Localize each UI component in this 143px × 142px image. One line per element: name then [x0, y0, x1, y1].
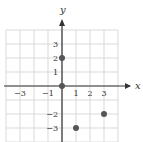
x-axis-label: x — [135, 80, 141, 91]
y-tick-label: −2 — [46, 110, 58, 119]
x-tick-label: 1 — [73, 89, 78, 98]
x-axis-arrow-icon — [125, 83, 131, 89]
x-tick-label: −3 — [14, 89, 26, 98]
axes — [4, 19, 131, 142]
data-point — [59, 83, 65, 89]
y-tick-label: 1 — [53, 68, 58, 77]
x-tick-label: −1 — [42, 89, 54, 98]
data-point — [59, 55, 65, 61]
coordinate-plane: −3−1123321−2−3 y x — [0, 0, 143, 142]
data-points — [59, 55, 107, 131]
y-axis-label: y — [59, 4, 66, 15]
y-tick-label: 3 — [53, 40, 58, 49]
x-tick-label: 2 — [87, 89, 92, 98]
y-tick-label: 2 — [53, 54, 58, 63]
data-point — [73, 125, 79, 131]
x-tick-label: 3 — [101, 89, 106, 98]
y-axis-arrow-icon — [59, 19, 65, 26]
y-tick-label: −3 — [46, 124, 58, 133]
data-point — [101, 111, 107, 117]
